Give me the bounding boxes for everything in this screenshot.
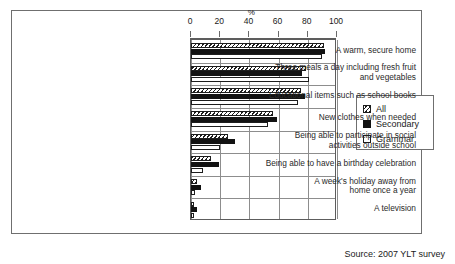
x-tick-mark	[307, 31, 308, 37]
figure-frame: 020406080100 % All Secondary Grammar A w…	[11, 10, 422, 234]
x-tick-label: 100	[329, 17, 343, 26]
bar-grammar	[191, 145, 220, 150]
category-label: Three meals a day including fresh fruit …	[249, 63, 421, 82]
category-label: Educational items such as school books	[249, 91, 421, 101]
x-tick-mark	[278, 31, 279, 37]
bar-secondary	[191, 185, 201, 190]
gridline-horizontal	[191, 85, 335, 86]
x-tick-mark	[336, 31, 337, 37]
legend-swatch-all-icon	[363, 105, 371, 113]
x-tick-label: 20	[214, 17, 223, 26]
gridline-horizontal	[191, 198, 335, 199]
bar-grammar	[191, 190, 195, 195]
bar-grammar	[191, 122, 268, 127]
x-tick-mark	[190, 31, 191, 37]
category-label: A warm, secure home	[249, 46, 421, 56]
category-label: Being able to have a birthday celebratio…	[249, 159, 421, 169]
source-note: Source: 2007 YLT survey	[344, 249, 445, 259]
bar-grammar	[191, 213, 194, 218]
category-label: Being able to participate in social acti…	[249, 131, 421, 150]
bar-all	[191, 134, 228, 139]
category-label: A television	[249, 204, 421, 214]
x-tick-mark	[219, 31, 220, 37]
bar-secondary	[191, 207, 197, 212]
gridline-horizontal	[191, 153, 335, 154]
x-tick-label: 80	[302, 17, 311, 26]
category-label: New clothes when needed	[249, 113, 421, 123]
bar-all	[191, 202, 194, 207]
x-axis: 020406080100	[12, 11, 423, 39]
x-tick-label: 40	[244, 17, 253, 26]
x-tick-label: 60	[273, 17, 282, 26]
bar-grammar	[191, 168, 203, 173]
x-tick-mark	[248, 31, 249, 37]
category-label: A week's holiday away from home once a y…	[249, 177, 421, 196]
bar-grammar	[191, 54, 322, 59]
bar-grammar	[191, 100, 298, 105]
bar-secondary	[191, 162, 219, 167]
bar-secondary	[191, 139, 235, 144]
bar-all	[191, 156, 211, 161]
x-tick-label: 0	[188, 17, 193, 26]
axis-unit-label: %	[248, 8, 255, 17]
gridline-horizontal	[191, 108, 335, 109]
bar-all	[191, 179, 197, 184]
